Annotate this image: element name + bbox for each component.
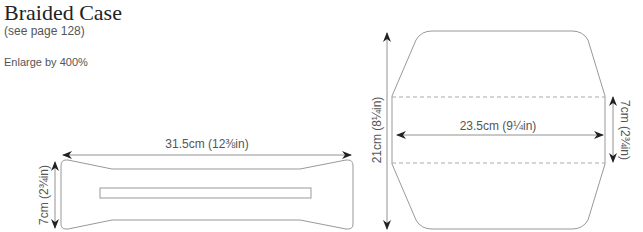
band-height-label: 7cm (2¾in) xyxy=(618,100,632,160)
strap-height-label: 7cm (2¾in) xyxy=(37,165,51,225)
strap-slot xyxy=(100,188,311,198)
strap-outline xyxy=(61,160,353,229)
strap-width-label: 31.5cm (12⅜in) xyxy=(165,137,248,151)
strap-piece xyxy=(55,155,353,229)
body-height-label: 21cm (8¼in) xyxy=(370,97,384,164)
pattern-diagrams: 31.5cm (12⅜in) 7cm (2¾in) 23.5cm (9¼in) … xyxy=(0,0,643,232)
body-width-label: 23.5cm (9¼in) xyxy=(460,119,537,133)
